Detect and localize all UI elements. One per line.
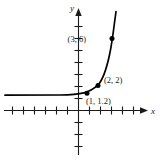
exponential-function-graph: (3, 6) (2, 2) (1, 1.2) y x — [0, 0, 160, 161]
data-point-3-6 — [110, 36, 115, 41]
x-axis-arrow-icon — [140, 107, 148, 113]
data-point-1-1.2 — [85, 91, 90, 96]
data-point-label-2-2: (2, 2) — [104, 75, 123, 85]
x-axis-label: x — [150, 106, 155, 116]
y-axis-label: y — [69, 3, 74, 13]
data-point-label-1-1.2: (1, 1.2) — [86, 96, 111, 106]
data-point-2-2 — [96, 83, 101, 88]
exponential-curve — [5, 12, 116, 96]
y-axis-arrow-icon — [75, 8, 81, 16]
data-point-label-3-6: (3, 6) — [68, 34, 87, 44]
plot-area: (3, 6) (2, 2) (1, 1.2) y x — [0, 0, 160, 161]
